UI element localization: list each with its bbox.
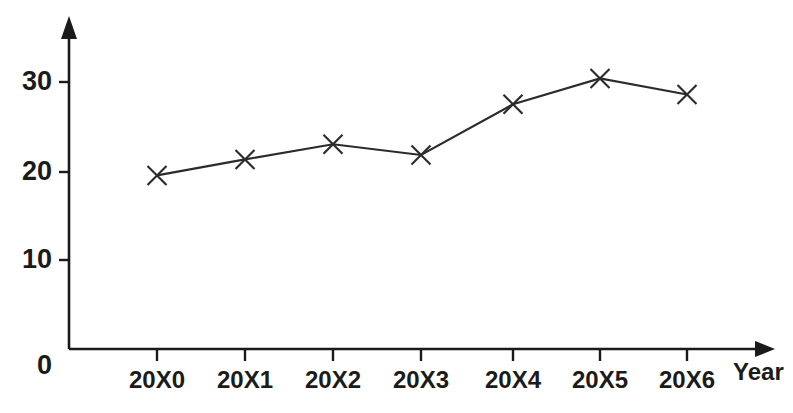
y-tick-label-0: 0 — [37, 350, 52, 380]
x-tick-label-20x4: 20X4 — [485, 366, 542, 393]
x-tick-label-20x3: 20X3 — [393, 366, 449, 393]
x-tick-label-20x2: 20X2 — [305, 366, 361, 393]
line-chart-figure: 30 20 10 0 20X0 20X1 20X2 20X3 20X4 20X5… — [0, 0, 793, 413]
x-tick-label-20x1: 20X1 — [217, 366, 273, 393]
x-tick-label-20x5: 20X5 — [572, 366, 628, 393]
y-tick-label-20: 20 — [22, 156, 52, 186]
chart-background — [0, 0, 793, 413]
y-tick-label-10: 10 — [22, 244, 52, 274]
y-tick-label-30: 30 — [22, 66, 52, 96]
x-tick-label-20x0: 20X0 — [129, 366, 185, 393]
chart-canvas: 30 20 10 0 20X0 20X1 20X2 20X3 20X4 20X5… — [0, 0, 793, 413]
x-axis-title: Year — [733, 358, 784, 385]
x-tick-label-20x6: 20X6 — [659, 366, 715, 393]
